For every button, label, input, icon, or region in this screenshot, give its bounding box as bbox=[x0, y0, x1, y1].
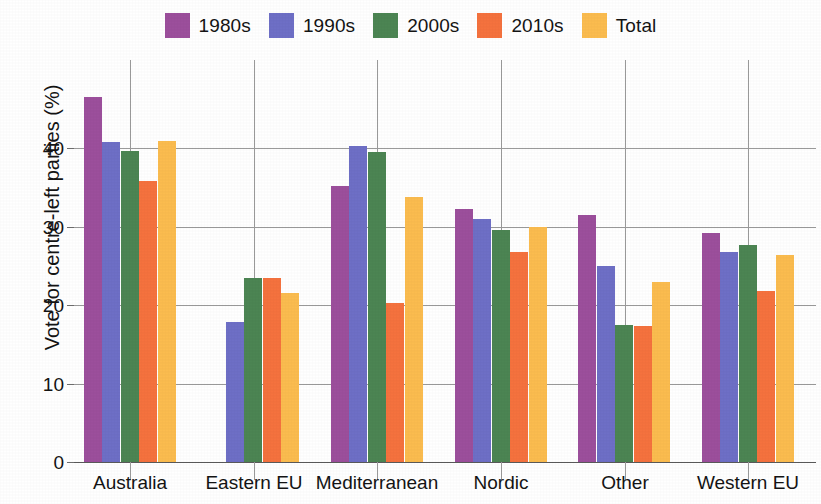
bar-western-eu-1990s bbox=[720, 252, 738, 462]
bar-nordic-1980s bbox=[455, 209, 473, 462]
x-axis-label-mediterranean: Mediterranean bbox=[316, 472, 439, 494]
plot-area: Vote for centre-left parties (%) 0102030… bbox=[0, 0, 821, 504]
bar-other-2010s bbox=[634, 326, 652, 462]
bar-australia-1980s bbox=[84, 97, 102, 462]
bar-eastern-eu-1990s bbox=[226, 322, 244, 462]
bar-australia-total bbox=[158, 141, 176, 462]
bar-western-eu-2000s bbox=[739, 245, 757, 462]
x-axis-label-western-eu: Western EU bbox=[697, 472, 799, 494]
bar-nordic-2010s bbox=[510, 252, 528, 462]
bar-australia-2000s bbox=[121, 151, 139, 462]
gridline-30 bbox=[74, 227, 816, 228]
bar-mediterranean-1990s bbox=[349, 146, 367, 462]
bar-eastern-eu-total bbox=[281, 293, 299, 462]
y-tick-mark-30 bbox=[67, 227, 74, 228]
bar-australia-1990s bbox=[102, 142, 120, 462]
y-tick-mark-10 bbox=[67, 384, 74, 385]
x-axis-label-nordic: Nordic bbox=[474, 472, 529, 494]
bar-eastern-eu-2010s bbox=[263, 278, 281, 462]
bar-western-eu-2010s bbox=[757, 291, 775, 462]
bar-other-total bbox=[652, 282, 670, 462]
y-tick-mark-40 bbox=[67, 148, 74, 149]
bar-western-eu-1980s bbox=[702, 233, 720, 462]
y-tick-label-40: 40 bbox=[24, 138, 64, 160]
bar-mediterranean-2010s bbox=[386, 303, 404, 462]
x-axis-label-other: Other bbox=[601, 472, 649, 494]
y-tick-mark-20 bbox=[67, 305, 74, 306]
bar-chart: 1980s1990s2000s2010sTotal Vote for centr… bbox=[0, 0, 821, 504]
bar-mediterranean-1980s bbox=[331, 186, 349, 462]
bar-mediterranean-2000s bbox=[368, 152, 386, 462]
x-axis-label-eastern-eu: Eastern EU bbox=[205, 472, 302, 494]
bar-other-2000s bbox=[615, 325, 633, 462]
y-tick-label-20: 20 bbox=[24, 295, 64, 317]
bar-nordic-total bbox=[529, 227, 547, 463]
y-tick-mark-0 bbox=[67, 462, 74, 463]
x-axis-label-australia: Australia bbox=[93, 472, 167, 494]
gridline-40 bbox=[74, 148, 816, 149]
y-axis-ticks: 010203040 bbox=[22, 0, 64, 504]
bar-nordic-1990s bbox=[473, 219, 491, 462]
bar-nordic-2000s bbox=[492, 230, 510, 462]
x-axis-baseline bbox=[74, 462, 816, 463]
bar-other-1980s bbox=[578, 215, 596, 462]
y-tick-label-30: 30 bbox=[24, 217, 64, 239]
bar-australia-2010s bbox=[139, 181, 157, 462]
bar-eastern-eu-2000s bbox=[244, 278, 262, 462]
y-tick-label-0: 0 bbox=[24, 452, 64, 474]
bar-mediterranean-total bbox=[405, 197, 423, 462]
bar-western-eu-total bbox=[776, 255, 794, 462]
y-tick-label-10: 10 bbox=[24, 374, 64, 396]
bar-other-1990s bbox=[597, 266, 615, 462]
